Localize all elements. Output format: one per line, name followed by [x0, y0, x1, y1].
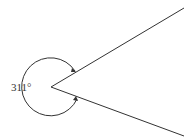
angle-label: 311° — [11, 81, 32, 93]
upper-ray — [51, 8, 184, 87]
angle-diagram: 311° — [0, 0, 194, 140]
lower-ray — [51, 87, 184, 136]
